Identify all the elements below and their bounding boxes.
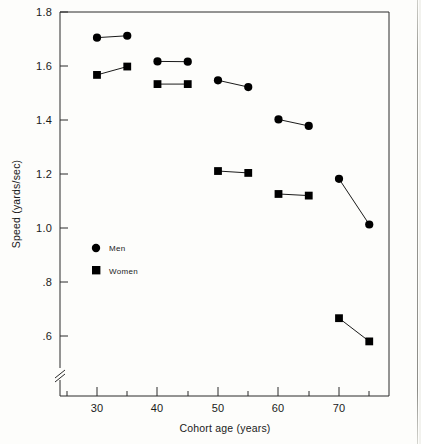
x-tick-label: 30 bbox=[91, 402, 104, 414]
series-connector-men bbox=[218, 80, 248, 87]
data-point-men bbox=[184, 58, 192, 66]
legend-marker-men-icon bbox=[92, 244, 100, 252]
legend-marker-women-icon bbox=[92, 266, 100, 274]
series-connector-women bbox=[279, 194, 309, 196]
scan-page-edge bbox=[417, 0, 418, 444]
plot-frame bbox=[60, 12, 389, 396]
legend-label-women: Women bbox=[109, 267, 138, 276]
data-point-men bbox=[153, 57, 161, 65]
y-tick-label: 1.2 bbox=[36, 168, 52, 180]
data-point-women bbox=[214, 167, 222, 175]
y-tick-label: 1.8 bbox=[36, 6, 52, 18]
data-point-men bbox=[244, 83, 252, 91]
legend: Men Women bbox=[92, 244, 138, 276]
series-connector-men bbox=[339, 179, 369, 225]
y-axis-tick-labels: 1.8 1.6 1.4 1.2 1.0 .8 .6 bbox=[36, 6, 52, 342]
series-connector-men bbox=[97, 36, 127, 38]
data-point-men bbox=[123, 32, 131, 40]
data-point-men bbox=[365, 220, 373, 228]
y-tick-label: .6 bbox=[42, 330, 52, 342]
series-connector-women bbox=[339, 318, 369, 341]
data-point-women bbox=[93, 71, 101, 79]
x-tick-label: 70 bbox=[333, 402, 346, 414]
series-connector-women bbox=[97, 67, 127, 75]
x-tick-label: 40 bbox=[151, 402, 164, 414]
data-point-women bbox=[154, 80, 162, 88]
data-point-women bbox=[244, 169, 252, 177]
data-point-women bbox=[275, 190, 283, 198]
figure-container: 1.8 1.6 1.4 1.2 1.0 .8 .6 30 40 50 60 bbox=[0, 0, 421, 444]
x-axis-tick-labels: 30 40 50 60 70 bbox=[91, 402, 346, 414]
y-tick-label: 1.4 bbox=[36, 114, 52, 126]
data-point-women bbox=[123, 63, 131, 71]
data-point-women bbox=[305, 192, 313, 200]
x-axis-ticks bbox=[67, 387, 369, 396]
series-connector-men bbox=[279, 119, 309, 125]
y-axis-title: Speed (yards/sec) bbox=[10, 160, 22, 249]
data-point-women bbox=[365, 338, 373, 346]
data-point-men bbox=[214, 76, 222, 84]
data-point-men bbox=[335, 175, 343, 183]
y-tick-label: 1.6 bbox=[36, 60, 52, 72]
series-connector-women bbox=[218, 171, 248, 173]
x-tick-label: 60 bbox=[272, 402, 285, 414]
x-axis-title: Cohort age (years) bbox=[179, 422, 270, 434]
y-tick-label: .8 bbox=[42, 276, 52, 288]
x-tick-label: 50 bbox=[212, 402, 225, 414]
data-point-women bbox=[184, 80, 192, 88]
data-point-men bbox=[305, 122, 313, 130]
data-point-men bbox=[93, 34, 101, 42]
data-series-layer bbox=[93, 32, 373, 346]
data-point-women bbox=[335, 314, 343, 322]
data-point-men bbox=[274, 115, 282, 123]
y-tick-label: 1.0 bbox=[36, 222, 52, 234]
y-axis-ticks bbox=[60, 12, 68, 336]
scatter-plot: 1.8 1.6 1.4 1.2 1.0 .8 .6 30 40 50 60 bbox=[0, 0, 421, 444]
legend-label-men: Men bbox=[109, 244, 125, 253]
